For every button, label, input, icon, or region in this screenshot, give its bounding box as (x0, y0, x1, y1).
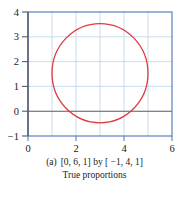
caption-line-range: (a)[0, 6, 1] by [ −1, 4, 1] (0, 156, 189, 169)
y-tick-label-2: 2 (14, 56, 19, 67)
y-tick-label-0: 0 (14, 106, 19, 117)
x-tick-label-4: 4 (121, 143, 127, 154)
y-tick-label-neg1: −1 (8, 131, 19, 142)
figure-panel: 4 3 2 1 0 −1 0 2 4 6 (a)[0, 6, 1] by [ −… (0, 0, 189, 198)
y-tick-label-1: 1 (14, 81, 19, 92)
x-tick-label-0: 0 (25, 143, 30, 154)
y-tick-label-3: 3 (14, 31, 19, 42)
y-tick-label-4: 4 (14, 7, 20, 18)
caption-label: (a) (46, 157, 57, 167)
x-tick-label-6: 6 (169, 143, 174, 154)
caption-subtitle: True proportions (0, 169, 189, 182)
y-axis-ticks (22, 12, 28, 136)
x-tick-label-2: 2 (73, 143, 78, 154)
figure-caption: (a)[0, 6, 1] by [ −1, 4, 1] True proport… (0, 156, 189, 181)
x-axis-ticks (28, 136, 172, 141)
caption-range: [0, 6, 1] by [ −1, 4, 1] (61, 157, 143, 167)
